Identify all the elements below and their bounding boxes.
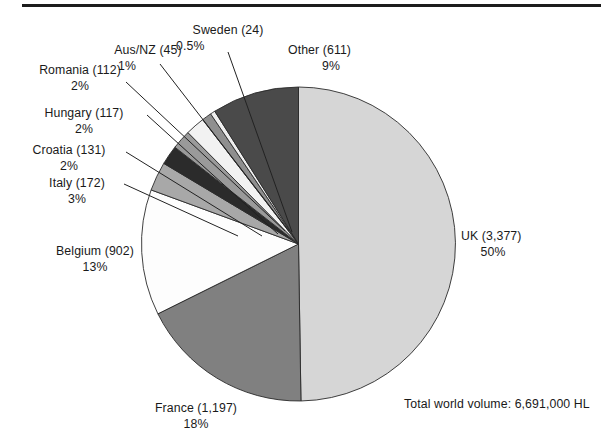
slice-label-france-pct: 18% (133, 416, 259, 432)
slice-label-romania-pct: 2% (15, 78, 145, 94)
slice-label-belgium-pct: 13% (32, 259, 158, 275)
slice-label-croatia-name: Croatia (131) (12, 142, 126, 158)
slice-label-hungary-name: Hungary (117) (22, 105, 146, 121)
slice-label-hungary: Hungary (117) 2% (22, 105, 146, 138)
slice-label-sweden-name: Sweden (24) (148, 22, 308, 38)
slice-label-uk-pct: 50% (461, 244, 525, 260)
slice-label-romania: Romania (112) 2% (15, 62, 145, 95)
slice-label-hungary-pct: 2% (22, 121, 146, 137)
slice-label-other-name: Other (611) (288, 42, 418, 58)
slice-label-croatia-pct: 2% (12, 158, 126, 174)
slice-label-belgium-name: Belgium (902) (32, 243, 158, 259)
slice-label-france-name: France (1,197) (133, 400, 259, 416)
total-world-volume-note: Total world volume: 6,691,000 HL (404, 397, 590, 411)
pie-chart-figure: Sweden (24) 0.5% Aus/NZ (45) 1% Romania … (0, 0, 601, 444)
slice-label-italy-pct: 3% (30, 191, 124, 207)
slice-label-italy-name: Italy (172) (30, 175, 124, 191)
slice-label-belgium: Belgium (902) 13% (32, 243, 158, 276)
slice-label-uk-name: UK (3,377) (461, 228, 571, 244)
slice-label-other-pct: 9% (288, 58, 374, 74)
slice-label-romania-name: Romania (112) (15, 62, 145, 78)
pie-slice-uk (299, 87, 456, 401)
slice-label-uk: UK (3,377) 50% (461, 228, 571, 261)
slice-label-other: Other (611) 9% (288, 42, 418, 75)
slice-label-croatia: Croatia (131) 2% (12, 142, 126, 175)
slice-label-france: France (1,197) 18% (133, 400, 259, 433)
slice-label-ausnz-name: Aus/NZ (45) (78, 42, 218, 58)
slice-label-italy: Italy (172) 3% (30, 175, 124, 208)
pie-slices-group (142, 87, 456, 401)
